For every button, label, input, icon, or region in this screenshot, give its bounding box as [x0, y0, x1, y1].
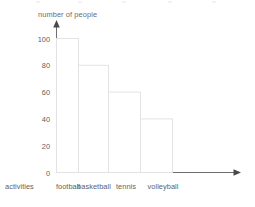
chart-canvas: number of people 100 80 60 40 20 0 activ… [0, 0, 255, 207]
bar-basketball [79, 65, 109, 172]
y-tick-label-0: 0 [46, 169, 50, 178]
y-axis-arrowhead [53, 20, 60, 28]
y-axis-title: number of people [38, 10, 97, 19]
bar-football [57, 39, 79, 173]
bar-series [57, 39, 173, 173]
x-tick-label-volleyball: volleyball [148, 182, 179, 191]
x-tick-label-tennis: tennis [116, 182, 136, 191]
x-tick-label-basketball: basketball [77, 182, 111, 191]
scan-artifacts [36, 1, 216, 3]
y-tick-label-80: 80 [42, 61, 50, 70]
x-axis-arrowhead [234, 169, 242, 176]
bar-volleyball [141, 119, 173, 173]
y-tick-label-40: 40 [42, 115, 50, 124]
y-tick-label-20: 20 [42, 142, 50, 151]
bar-chart: number of people 100 80 60 40 20 0 activ… [0, 0, 255, 207]
bar-tennis [109, 92, 141, 172]
x-axis-name: activities [5, 182, 34, 191]
y-tick-label-60: 60 [42, 88, 50, 97]
y-tick-label-100: 100 [38, 35, 50, 44]
